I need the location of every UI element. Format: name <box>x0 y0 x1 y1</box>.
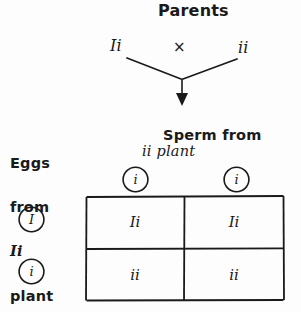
row-gamete-0: I <box>18 206 45 233</box>
column-gamete-1: i <box>223 166 250 193</box>
column-gamete-0-label: i <box>133 173 137 186</box>
punnett-square-diagram: Parents Ii × ii Sperm fromii plant Eggs … <box>0 0 301 312</box>
punnett-cell-0-0: Ii <box>130 213 141 231</box>
eggs-label-line1: Eggs <box>10 156 53 171</box>
sperm-label-line2: ii plant <box>142 144 262 159</box>
eggs-label-line3: Ii <box>10 244 53 259</box>
grid-lines <box>85 195 285 302</box>
row-gamete-0-label: I <box>29 213 34 226</box>
column-gamete-1-label: i <box>234 173 238 186</box>
sperm-label-line1: Sperm from <box>163 127 262 143</box>
row-gamete-1-label: i <box>29 265 33 278</box>
punnett-grid: Ii Ii ii ii <box>85 195 285 302</box>
column-gamete-0: i <box>122 166 149 193</box>
punnett-cell-1-1: ii <box>229 266 239 284</box>
row-gamete-1: i <box>18 258 45 285</box>
eggs-label-line4: plant <box>10 289 53 304</box>
punnett-cell-0-1: Ii <box>229 213 240 231</box>
punnett-cell-1-0: ii <box>130 266 140 284</box>
